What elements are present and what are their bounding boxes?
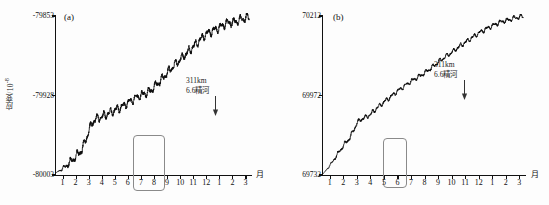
figure-container: 应变/10-8 (a) 311km 6.6精河 -79853-79928-800… — [0, 0, 549, 205]
y-axis-label-a: 应变/10-8 — [4, 78, 16, 110]
x-tick-label: 3 — [355, 179, 359, 188]
panel-b: 应变/10-8 (b) 311km 6.6精河 7021269972697321… — [275, 0, 549, 205]
x-axis-label-b: 月 — [531, 168, 539, 179]
x-tick-label: 4 — [368, 179, 372, 188]
x-tick-label: 8 — [423, 179, 427, 188]
x-tick-label: 1 — [217, 179, 221, 188]
y-tick-mark — [319, 15, 324, 16]
x-tick-label: 6 — [395, 179, 399, 188]
x-tick-label: 2 — [504, 179, 508, 188]
x-tick-label: 10 — [448, 179, 456, 188]
y-tick-mark — [52, 174, 57, 175]
x-tick-label: 11 — [189, 179, 197, 188]
x-tick-label: 5 — [113, 179, 117, 188]
x-tick-label: 7 — [409, 179, 413, 188]
series-path — [56, 13, 249, 173]
x-tick-label: 6 — [126, 179, 130, 188]
x-tick-label: 4 — [100, 179, 104, 188]
x-tick-label: 9 — [436, 179, 440, 188]
plot-area-b: 311km 6.6精河 7021269972697321234567891011… — [322, 16, 526, 176]
y-tick-mark — [319, 95, 324, 96]
y-tick-mark — [319, 174, 324, 175]
x-tick-label: 11 — [461, 179, 469, 188]
x-tick-label: 12 — [202, 179, 210, 188]
x-tick-label: 3 — [517, 179, 521, 188]
x-tick-label: 12 — [475, 179, 483, 188]
plot-area-a: 311km 6.6精河 -79853-79928-800031234567891… — [55, 16, 252, 176]
x-tick-label: 10 — [176, 179, 184, 188]
x-tick-label: 2 — [230, 179, 234, 188]
strain-series-b — [323, 16, 526, 175]
x-tick-label: 1 — [61, 179, 65, 188]
x-tick-label: 7 — [139, 179, 143, 188]
x-tick-label: 9 — [165, 179, 169, 188]
y-tick-mark — [52, 15, 57, 16]
x-tick-label: 8 — [152, 179, 156, 188]
x-tick-label: 2 — [74, 179, 78, 188]
x-tick-label: 1 — [490, 179, 494, 188]
strain-series-a — [56, 16, 252, 175]
x-tick-label: 3 — [87, 179, 91, 188]
series-path — [323, 14, 523, 174]
y-tick-mark — [52, 95, 57, 96]
panel-a: 应变/10-8 (a) 311km 6.6精河 -79853-79928-800… — [0, 0, 275, 205]
x-tick-label: 3 — [243, 179, 247, 188]
x-tick-label: 5 — [382, 179, 386, 188]
x-axis-label-a: 月 — [256, 168, 264, 179]
x-tick-label: 2 — [341, 179, 345, 188]
x-tick-label: 1 — [328, 179, 332, 188]
